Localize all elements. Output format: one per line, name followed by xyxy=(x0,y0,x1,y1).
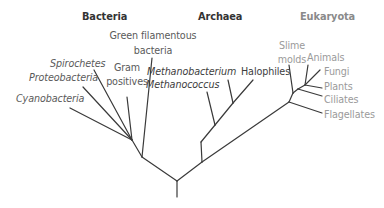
branch-archaea-inner2 xyxy=(215,103,233,125)
branch-eukaryota-inner2 xyxy=(293,89,298,93)
branch-methanococcus xyxy=(207,92,215,125)
taxon-label-halophiles: Halophiles xyxy=(241,66,290,77)
branch-archaea xyxy=(201,142,202,162)
taxon-label-gram-line1: Gram xyxy=(105,62,149,73)
taxon-label-slime-molds-line1: Slime xyxy=(276,40,308,51)
taxon-label-ciliates: Ciliates xyxy=(324,94,358,105)
branch-ciliates xyxy=(298,89,322,96)
domain-header-eukaryota: Eukaryota xyxy=(300,11,355,22)
domain-header-bacteria: Bacteria xyxy=(82,11,127,22)
taxon-label-spirochetes: Spirochetes xyxy=(50,58,105,69)
branch-plants xyxy=(305,85,322,88)
taxon-label-animals: Animals xyxy=(307,52,345,63)
branch-eukaryota-crown xyxy=(298,85,305,89)
branch-bacteria xyxy=(142,157,177,181)
branch-archaea-eukaryota xyxy=(177,162,202,181)
phylogenetic-tree-diagram: Bacteria Archaea Eukaryota Green filamen… xyxy=(0,0,384,208)
taxon-label-plants: Plants xyxy=(324,81,353,92)
branch-archaea-inner xyxy=(201,125,215,142)
branch-gram-positives xyxy=(127,97,132,140)
branch-eukaryota xyxy=(202,102,289,162)
branch-eukaryota-inner xyxy=(289,93,293,102)
taxon-label-flagellates: Flagellates xyxy=(324,109,375,120)
taxon-label-gram-line2: positives xyxy=(103,76,151,87)
branch-methanobacterium xyxy=(228,80,233,103)
taxon-label-green-filamentous-line1: Green filamentous xyxy=(107,30,199,41)
taxon-label-green-filamentous-line2: bacteria xyxy=(107,45,199,56)
taxon-label-slime-molds-line2: molds xyxy=(276,54,308,65)
taxon-label-cyanobacteria: Cyanobacteria xyxy=(16,93,84,104)
taxon-label-methanococcus: Methanococcus xyxy=(146,79,219,90)
branch-bacteria-inner xyxy=(132,140,142,157)
taxon-label-proteobacteria: Proteobacteria xyxy=(29,72,98,83)
domain-header-archaea: Archaea xyxy=(198,11,242,22)
branch-halophiles xyxy=(233,80,253,103)
branch-flagellates xyxy=(289,102,322,113)
taxon-label-fungi: Fungi xyxy=(324,66,349,77)
taxon-label-methanobacterium: Methanobacterium xyxy=(147,66,236,77)
